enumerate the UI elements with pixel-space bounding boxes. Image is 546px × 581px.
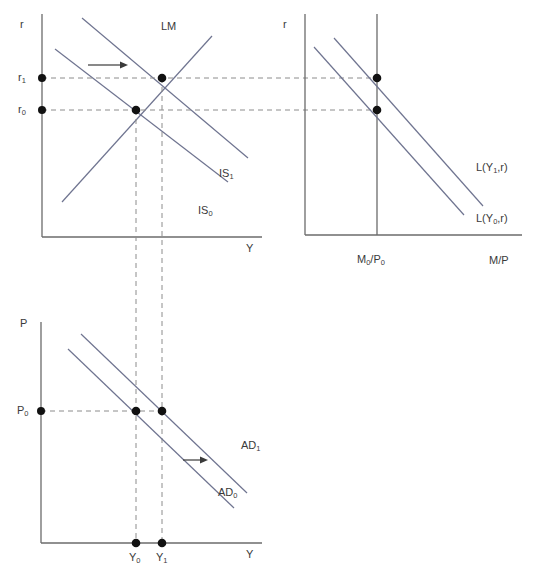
tick-label-p0: P0 bbox=[17, 405, 29, 416]
curve-label-ly0r-end: ,r) bbox=[497, 212, 507, 224]
curve-label-lm: LM bbox=[161, 21, 176, 32]
dot-equilibrium-e0 bbox=[132, 106, 141, 115]
curve-label-ly0r-text: L(Y bbox=[476, 212, 493, 224]
dot-r0-axis bbox=[38, 106, 46, 114]
tick-label-y1-sub: 1 bbox=[163, 556, 167, 565]
tick-label-r0: r0 bbox=[18, 104, 26, 115]
dot-y1-axis bbox=[158, 539, 167, 548]
figure-caption bbox=[100, 572, 530, 581]
money-supply-tick-label: M0/P0 bbox=[357, 254, 385, 265]
ad-y-axis-label: P bbox=[20, 318, 27, 329]
dot-ad1-equilibrium bbox=[158, 407, 167, 416]
tick-label-y1: Y1 bbox=[156, 552, 168, 563]
money-panel bbox=[305, 14, 522, 235]
tick-label-y0-sub: 0 bbox=[136, 556, 140, 565]
ad-panel bbox=[37, 322, 262, 547]
curve-is1 bbox=[82, 18, 248, 158]
curve-lm bbox=[62, 36, 212, 202]
dot-equilibrium-e1 bbox=[158, 74, 167, 83]
islm-shift-arrow bbox=[88, 62, 128, 69]
curve-label-ly1r-end: ,r) bbox=[497, 161, 507, 173]
islm-x-axis-label: Y bbox=[246, 243, 253, 254]
figure-canvas: r Y LM IS1 IS0 r1 r0 r M/P M0/P0 L(Y1,r)… bbox=[0, 0, 546, 581]
money-supply-p-sub: 0 bbox=[381, 258, 385, 267]
tick-label-p0-sub: 0 bbox=[24, 409, 28, 418]
money-supply-m: M bbox=[357, 253, 366, 265]
curve-ad0 bbox=[68, 349, 234, 508]
curve-label-is0-text: IS bbox=[198, 204, 208, 216]
dot-r1-axis bbox=[38, 74, 46, 82]
curve-label-ly1r-sub: 1 bbox=[493, 166, 497, 175]
dot-p0-axis bbox=[37, 407, 45, 415]
curve-label-is0: IS0 bbox=[198, 205, 213, 216]
money-x-axis-label: M/P bbox=[489, 255, 509, 266]
money-supply-p: /P bbox=[370, 253, 380, 265]
money-supply-m-sub: 0 bbox=[366, 258, 370, 267]
dot-ad0-equilibrium bbox=[132, 407, 141, 416]
curve-label-ad1-text: AD bbox=[241, 439, 256, 451]
curve-label-is0-sub: 0 bbox=[208, 209, 212, 218]
tick-label-y0: Y0 bbox=[129, 552, 141, 563]
tick-label-r1: r1 bbox=[18, 72, 26, 83]
curve-label-ly0r-sub: 0 bbox=[493, 217, 497, 226]
curve-label-is1: IS1 bbox=[219, 168, 234, 179]
dot-money-e1 bbox=[373, 74, 382, 83]
curve-label-ad0: AD0 bbox=[218, 487, 237, 498]
tick-label-r1-sub: 1 bbox=[22, 76, 26, 85]
curve-ly0r bbox=[314, 47, 464, 215]
curve-label-is1-text: IS bbox=[219, 167, 229, 179]
money-y-axis-label: r bbox=[283, 19, 287, 30]
curve-label-ly1r: L(Y1,r) bbox=[476, 162, 508, 173]
curve-label-ad0-sub: 0 bbox=[233, 491, 237, 500]
islm-y-axis-label: r bbox=[20, 19, 24, 30]
curve-label-ly0r: L(Y0,r) bbox=[476, 213, 508, 224]
curve-label-is1-sub: 1 bbox=[229, 172, 233, 181]
figure-svg bbox=[0, 0, 546, 581]
curve-label-ad0-text: AD bbox=[218, 486, 233, 498]
ad-x-axis-label: Y bbox=[246, 549, 253, 560]
dot-y0-axis bbox=[132, 539, 141, 548]
curve-label-ly1r-text: L(Y bbox=[476, 161, 493, 173]
curve-label-ad1-sub: 1 bbox=[256, 444, 260, 453]
curve-label-ad1: AD1 bbox=[241, 440, 260, 451]
tick-label-r0-sub: 0 bbox=[22, 108, 26, 117]
dot-money-e0 bbox=[373, 106, 382, 115]
curve-ly1r bbox=[334, 38, 483, 206]
islm-panel bbox=[38, 14, 378, 543]
